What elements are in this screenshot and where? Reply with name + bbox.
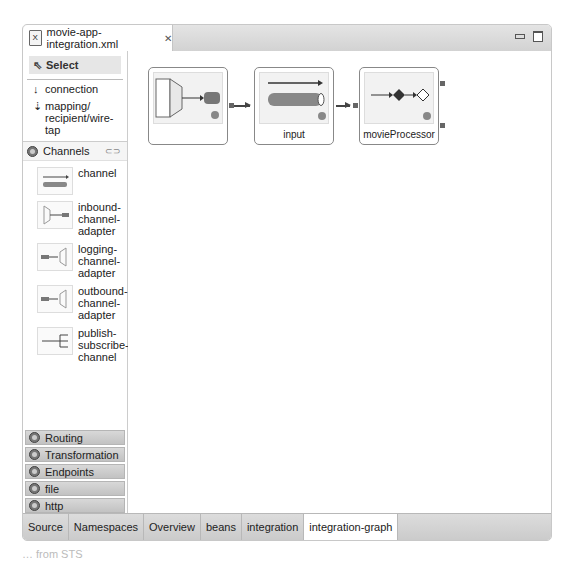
transformation-icon [29,449,40,460]
palette-entry-publish-subscribe-channel[interactable]: publish- subscribe- channel [37,327,127,363]
drawer-label: http [45,500,63,512]
channels-icon [27,146,38,157]
logging-channel-adapter-icon [37,243,73,271]
node-movie-processor[interactable]: movieProcessor [359,67,439,145]
drawer-routing[interactable]: Routing [25,430,125,445]
palette-entry-label: logging- channel- adapter [78,243,118,279]
integration-graph-canvas[interactable]: input movieProcessor [128,51,551,514]
channels-drawer-header[interactable]: Channels ⊂⊃ [23,141,127,161]
input-port[interactable] [353,103,358,108]
routing-icon [29,432,40,443]
editor-window: X movie-app-integration.xml ✕ ⇖ Select ↓… [22,24,552,541]
endpoints-icon [29,466,40,477]
channels-drawer-title: Channels [43,145,89,157]
pin-drawer-icon[interactable]: ⊂⊃ [105,146,121,156]
node-label: movieProcessor [360,129,438,140]
http-icon [29,500,40,511]
drawer-file[interactable]: file [25,481,125,496]
tab-source[interactable]: Source [23,514,69,540]
tab-namespaces[interactable]: Namespaces [69,514,144,540]
node-inbound-channel-adapter[interactable] [148,67,228,145]
tab-integration-graph[interactable]: integration-graph [304,514,398,540]
palette: ⇖ Select ↓ connection ⇣ mapping/ recipie… [23,51,128,514]
minimize-icon[interactable] [515,34,525,39]
palette-entry-label: inbound- channel- adapter [78,201,118,237]
palette-entry-label: channel [78,167,117,195]
channel-icon [259,72,329,124]
figure-caption: … from STS [22,548,83,560]
editor-page-tabs: Source Namespaces Overview beans integra… [23,513,551,540]
select-tool[interactable]: ⇖ Select [29,56,121,74]
connection-tool-label: connection [45,83,98,95]
connection-arrow[interactable] [234,105,250,107]
tab-beans[interactable]: beans [201,514,242,540]
inbound-adapter-icon [153,72,223,124]
connection-tool[interactable]: ↓ connection [23,80,127,95]
connection-arrow[interactable] [336,105,350,107]
mapping-tool[interactable]: ⇣ mapping/ recipient/wire- tap [23,95,127,136]
editor-tab-bar: X movie-app-integration.xml ✕ [23,25,551,52]
editor-tab-movie-app-integration[interactable]: X movie-app-integration.xml ✕ [23,25,173,51]
inbound-channel-adapter-icon [37,201,73,229]
drawer-transformation[interactable]: Transformation [25,447,125,462]
drawer-label: Endpoints [45,466,94,478]
maximize-icon[interactable] [533,31,543,42]
drawer-http[interactable]: http [25,498,125,513]
palette-entry-outbound-channel-adapter[interactable]: outbound- channel- adapter [37,285,127,321]
tab-overview[interactable]: Overview [144,514,201,540]
palette-entry-channel[interactable]: channel [37,167,127,195]
service-activator-icon [364,72,434,124]
node-label: input [255,129,333,140]
select-tool-label: Select [46,59,78,71]
palette-entry-logging-channel-adapter[interactable]: logging- channel- adapter [37,243,127,279]
publish-subscribe-channel-icon [37,327,73,355]
drawer-label: Routing [45,432,83,444]
outbound-channel-adapter-icon [37,285,73,313]
window-controls [515,31,543,42]
dashed-arrow-down-icon: ⇣ [33,100,45,136]
xml-file-icon: X [29,30,42,46]
editor-tab-title: movie-app-integration.xml [47,26,158,50]
output-port[interactable] [440,123,445,128]
palette-entry-label: publish- subscribe- channel [78,327,122,363]
drawer-label: Transformation [45,449,119,461]
output-port[interactable] [440,81,445,86]
mapping-tool-label: mapping/ recipient/wire- tap [45,100,115,136]
drawer-label: file [45,483,59,495]
palette-entry-label: outbound- channel- adapter [78,285,122,321]
channel-icon [37,167,73,195]
file-icon [29,483,40,494]
palette-entry-inbound-channel-adapter[interactable]: inbound- channel- adapter [37,201,127,237]
solid-arrow-down-icon: ↓ [33,83,45,95]
pointer-cursor-icon: ⇖ [33,59,42,72]
drawer-endpoints[interactable]: Endpoints [25,464,125,479]
node-input-channel[interactable]: input [254,67,334,145]
tab-integration[interactable]: integration [242,514,304,540]
close-tab-icon[interactable]: ✕ [164,33,172,44]
